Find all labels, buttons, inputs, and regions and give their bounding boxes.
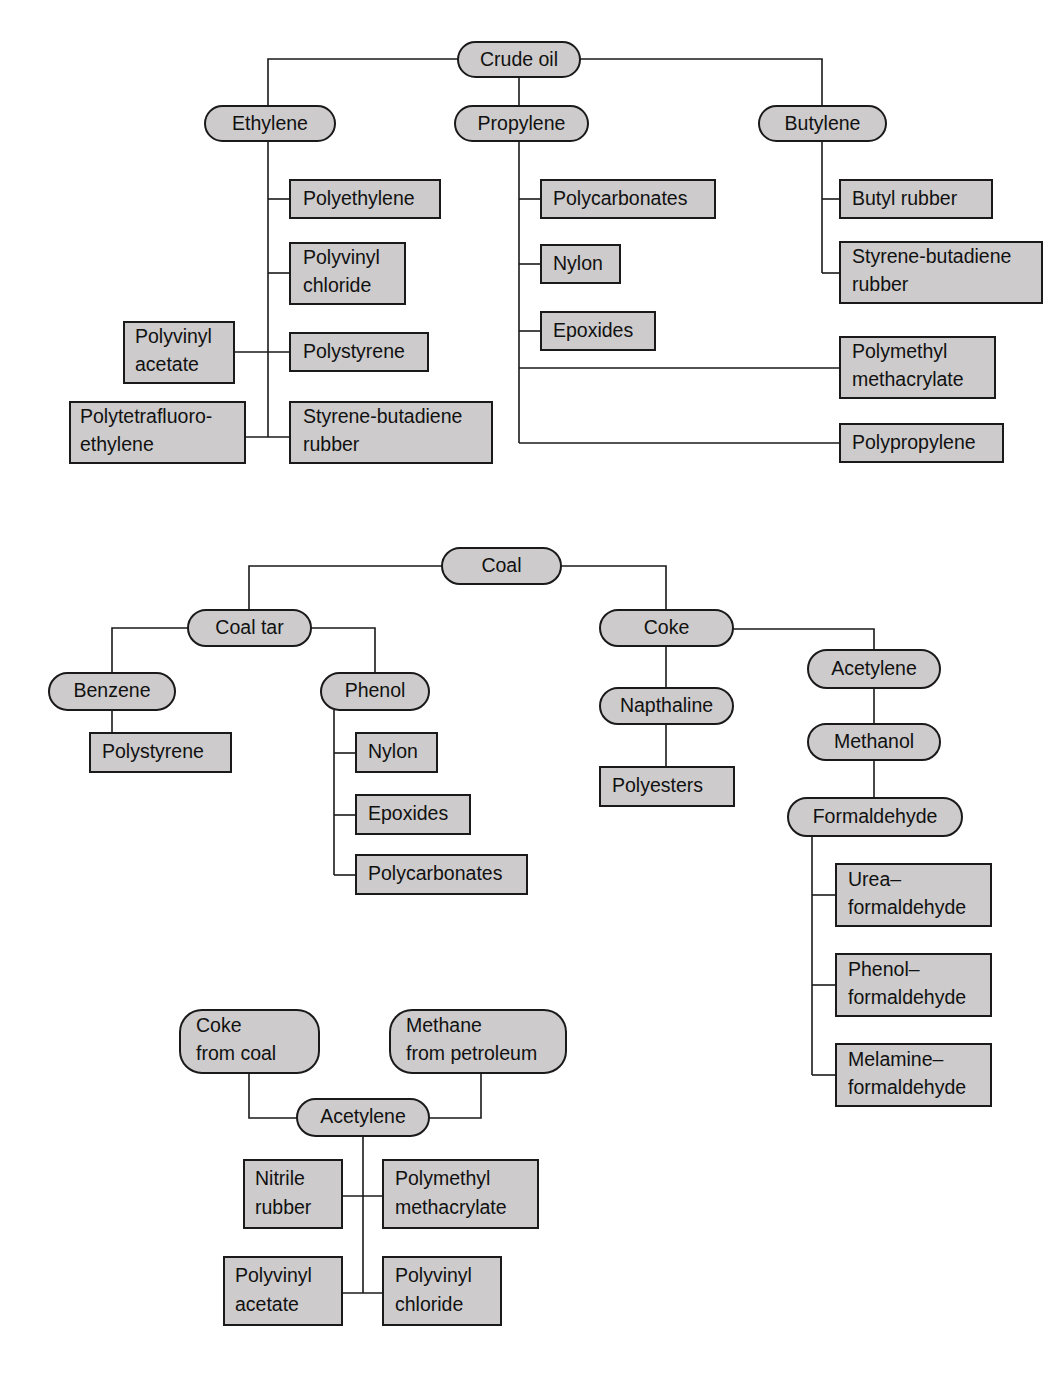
node-urea-formaldehyde[interactable]: Urea– formaldehyde xyxy=(836,864,991,926)
node-ethylene[interactable]: Ethylene xyxy=(205,106,335,141)
node-polycarbonates-propylene[interactable]: Polycarbonates xyxy=(541,180,715,218)
nitrile-rubber-label-line1: Nitrile xyxy=(255,1167,305,1189)
node-polytetrafluoroethylene[interactable]: Polytetrafluoro- ethylene xyxy=(70,402,245,463)
polystyrene-benzene-label: Polystyrene xyxy=(102,740,204,762)
node-polyvinyl-chloride[interactable]: Polyvinyl chloride xyxy=(290,243,405,304)
node-butylene[interactable]: Butylene xyxy=(759,106,886,141)
node-polypropylene[interactable]: Polypropylene xyxy=(840,424,1003,462)
butyl-rubber-label: Butyl rubber xyxy=(852,187,958,209)
crude-oil-label: Crude oil xyxy=(480,48,558,70)
node-coal[interactable]: Coal xyxy=(442,548,561,584)
node-polyethylene[interactable]: Polyethylene xyxy=(290,180,440,218)
node-epoxides-phenol[interactable]: Epoxides xyxy=(356,795,470,834)
acetylene-label: Acetylene xyxy=(320,1105,406,1127)
node-polyvinyl-chloride-acetylene[interactable]: Polyvinyl chloride xyxy=(383,1257,501,1325)
urea-formaldehyde-label-line1: Urea– xyxy=(848,868,901,890)
node-coke-from-coal[interactable]: Coke from coal xyxy=(180,1010,319,1073)
node-nitrile-rubber[interactable]: Nitrile rubber xyxy=(244,1160,342,1228)
epoxides-phenol-label: Epoxides xyxy=(368,802,448,824)
ptfe-label-line2: ethylene xyxy=(80,433,154,455)
polymer-feedstock-diagram: Crude oil Ethylene Propylene Butylene Po… xyxy=(0,0,1063,1377)
melamine-formaldehyde-label-line2: formaldehyde xyxy=(848,1076,966,1098)
node-polymethyl-methacrylate-acetylene[interactable]: Polymethyl methacrylate xyxy=(383,1160,538,1228)
node-crude-oil[interactable]: Crude oil xyxy=(458,42,580,77)
edge-coal-coke xyxy=(561,566,666,610)
node-polymethyl-methacrylate-propylene[interactable]: Polymethyl methacrylate xyxy=(840,337,995,398)
node-phenol-formaldehyde[interactable]: Phenol– formaldehyde xyxy=(836,954,991,1016)
flowchart-canvas: Crude oil Ethylene Propylene Butylene Po… xyxy=(0,0,1063,1377)
polyvinyl-acetate-label-line1: Polyvinyl xyxy=(135,325,212,347)
polycarbonates-propylene-label: Polycarbonates xyxy=(553,187,688,209)
benzene-label: Benzene xyxy=(74,679,151,701)
node-polycarbonates-phenol[interactable]: Polycarbonates xyxy=(356,855,527,894)
pvc-acetylene-label-line2: chloride xyxy=(395,1293,463,1315)
node-napthaline[interactable]: Napthaline xyxy=(600,688,733,724)
node-butyl-rubber[interactable]: Butyl rubber xyxy=(840,180,992,218)
nitrile-rubber-label-line2: rubber xyxy=(255,1196,312,1218)
chart-acetylene: Coke from coal Methane from petroleum Ac… xyxy=(180,1010,566,1325)
node-polyvinyl-acetate-acetylene[interactable]: Polyvinyl acetate xyxy=(224,1257,342,1325)
ethylene-label: Ethylene xyxy=(232,112,308,134)
coal-label: Coal xyxy=(481,554,521,576)
node-styrene-butadiene-rubber-butylene[interactable]: Styrene-butadiene rubber xyxy=(840,242,1042,303)
edge-crudeoil-butylene xyxy=(580,59,822,106)
node-nylon-propylene[interactable]: Nylon xyxy=(541,245,620,283)
melamine-formaldehyde-label-line1: Melamine– xyxy=(848,1048,944,1070)
nylon-phenol-label: Nylon xyxy=(368,740,418,762)
pvc-acetylene-label-line1: Polyvinyl xyxy=(395,1264,472,1286)
node-polystyrene-ethylene[interactable]: Polystyrene xyxy=(290,333,428,371)
phenol-label: Phenol xyxy=(345,679,406,701)
pva-acetylene-label-line1: Polyvinyl xyxy=(235,1264,312,1286)
polyvinyl-chloride-label-line2: chloride xyxy=(303,274,371,296)
node-acetylene-coke[interactable]: Acetylene xyxy=(808,650,940,688)
pmma-propylene-label-line2: methacrylate xyxy=(852,368,964,390)
polyvinyl-acetate-label-line2: acetate xyxy=(135,353,199,375)
node-acetylene[interactable]: Acetylene xyxy=(297,1099,429,1136)
polypropylene-label: Polypropylene xyxy=(852,431,976,453)
phenol-formaldehyde-label-line2: formaldehyde xyxy=(848,986,966,1008)
epoxides-propylene-label: Epoxides xyxy=(553,319,633,341)
butylene-label: Butylene xyxy=(785,112,861,134)
polyesters-label: Polyesters xyxy=(612,774,703,796)
pmma-acetylene-label-line1: Polymethyl xyxy=(395,1167,490,1189)
pmma-acetylene-label-line2: methacrylate xyxy=(395,1196,507,1218)
edge-methane-acetylene xyxy=(424,1073,481,1118)
propylene-label: Propylene xyxy=(478,112,566,134)
node-styrene-butadiene-rubber-ethylene[interactable]: Styrene-butadiene rubber xyxy=(290,402,492,463)
sbr-ethylene-label-line1: Styrene-butadiene xyxy=(303,405,462,427)
node-nylon-phenol[interactable]: Nylon xyxy=(356,733,437,772)
node-coke-coal[interactable]: Coke xyxy=(600,610,733,646)
edge-coaltar-benzene xyxy=(112,628,188,673)
coke-coal-label: Coke xyxy=(644,616,690,638)
methanol-label: Methanol xyxy=(834,730,914,752)
edge-coal-coaltar xyxy=(249,566,442,610)
pva-acetylene-label-line2: acetate xyxy=(235,1293,299,1315)
edge-cokefromcoal-acetylene xyxy=(249,1073,303,1118)
sbr-butylene-label-line2: rubber xyxy=(852,273,909,295)
node-polyvinyl-acetate[interactable]: Polyvinyl acetate xyxy=(124,322,234,383)
pmma-propylene-label-line1: Polymethyl xyxy=(852,340,947,362)
coke-from-coal-label-line2: from coal xyxy=(196,1042,276,1064)
node-propylene[interactable]: Propylene xyxy=(455,106,588,141)
node-polyesters[interactable]: Polyesters xyxy=(600,767,734,806)
methane-from-petroleum-label-line2: from petroleum xyxy=(406,1042,537,1064)
node-benzene[interactable]: Benzene xyxy=(49,673,175,710)
node-epoxides-propylene[interactable]: Epoxides xyxy=(541,312,655,350)
node-methanol[interactable]: Methanol xyxy=(808,724,940,760)
ptfe-label-line1: Polytetrafluoro- xyxy=(80,405,212,427)
node-methane-from-petroleum[interactable]: Methane from petroleum xyxy=(390,1010,566,1073)
node-phenol[interactable]: Phenol xyxy=(321,673,429,710)
polystyrene-ethylene-label: Polystyrene xyxy=(303,340,405,362)
coal-tar-label: Coal tar xyxy=(215,616,284,638)
node-melamine-formaldehyde[interactable]: Melamine– formaldehyde xyxy=(836,1044,991,1106)
node-polystyrene-benzene[interactable]: Polystyrene xyxy=(90,733,231,772)
chart-crude-oil: Crude oil Ethylene Propylene Butylene Po… xyxy=(70,42,1042,463)
coke-from-coal-label-line1: Coke xyxy=(196,1014,242,1036)
edge-coaltar-phenol xyxy=(311,628,375,673)
node-coal-tar[interactable]: Coal tar xyxy=(188,610,311,646)
formaldehyde-label: Formaldehyde xyxy=(813,805,938,827)
urea-formaldehyde-label-line2: formaldehyde xyxy=(848,896,966,918)
phenol-formaldehyde-label-line1: Phenol– xyxy=(848,958,920,980)
polycarbonates-phenol-label: Polycarbonates xyxy=(368,862,503,884)
node-formaldehyde[interactable]: Formaldehyde xyxy=(788,798,962,836)
